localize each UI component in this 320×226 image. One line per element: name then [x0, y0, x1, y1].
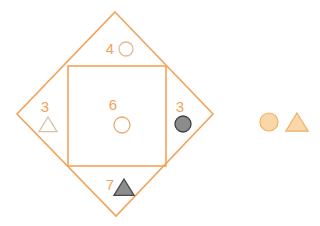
square-shape: [68, 66, 166, 166]
marker-filled-circle-right: [175, 116, 191, 132]
legend-triangle-icon: [286, 113, 308, 131]
region-label-top: 4: [106, 40, 114, 57]
marker-open-triangle-left: [39, 117, 57, 132]
venn-diagram-figure: 4 3 6 3 7: [0, 0, 320, 226]
figure-canvas: 4 3 6 3 7: [0, 0, 320, 226]
marker-open-circle-top: [119, 42, 133, 56]
region-label-center: 6: [109, 96, 117, 113]
region-label-left: 3: [41, 98, 49, 115]
marker-open-circle-center: [114, 117, 130, 133]
marker-filled-triangle-bottom: [114, 179, 134, 195]
legend-circle-icon: [260, 113, 278, 131]
region-label-right: 3: [176, 98, 184, 115]
region-label-bottom: 7: [106, 176, 114, 193]
legend: [260, 113, 308, 131]
